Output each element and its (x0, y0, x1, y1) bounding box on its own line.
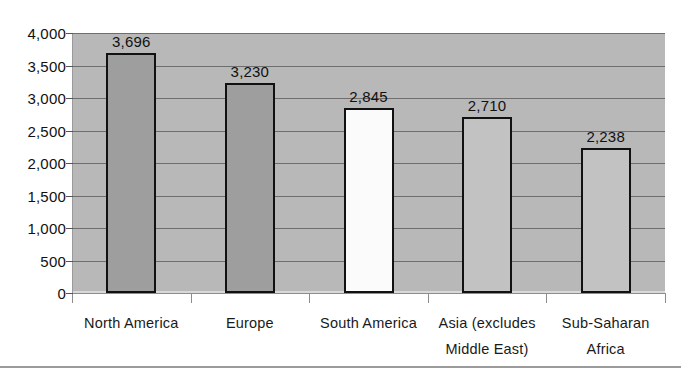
y-axis-tick-label: 3,000 (4, 91, 66, 106)
x-axis-category-label: South America (309, 310, 428, 336)
x-axis-category-line: Europe (191, 310, 310, 336)
bar (225, 83, 275, 293)
y-axis-tick-label: 1,500 (4, 188, 66, 203)
x-axis-category-label: Asia (excludesMiddle East) (428, 310, 547, 362)
y-axis-tick-mark (66, 163, 73, 164)
x-axis-category-line: Sub-Saharan (546, 310, 665, 336)
x-axis-category-label: Sub-SaharanAfrica (546, 310, 665, 362)
y-axis-tick-label: 4,000 (4, 26, 66, 41)
y-axis-tick-mark (66, 261, 73, 262)
bar-value-label: 2,845 (324, 89, 414, 104)
y-axis-tick-mark (66, 196, 73, 197)
y-axis-labels: 05001,0001,5002,0002,5003,0003,5004,000 (0, 0, 66, 387)
x-axis-category-line: North America (72, 310, 191, 336)
y-axis-tick-label: 500 (4, 253, 66, 268)
x-axis-category-line: Asia (excludes (428, 310, 547, 336)
y-axis-tick-label: 1,000 (4, 221, 66, 236)
y-axis-tick-mark (66, 33, 73, 34)
x-axis-line (72, 293, 666, 294)
y-axis-tick-mark (66, 131, 73, 132)
x-axis-category-line: Middle East) (428, 336, 547, 362)
x-axis-tick-mark (309, 294, 310, 303)
x-axis-tick-mark (428, 294, 429, 303)
bar (344, 108, 394, 293)
x-axis-tick-mark (665, 294, 666, 303)
bottom-divider (0, 366, 681, 368)
y-axis-tick-mark (66, 98, 73, 99)
x-axis-category-line: South America (309, 310, 428, 336)
x-axis-tick-mark (546, 294, 547, 303)
x-axis-category-label: Europe (191, 310, 310, 336)
bar-chart: 05001,0001,5002,0002,5003,0003,5004,000 … (0, 0, 681, 387)
bar-value-label: 3,230 (205, 64, 295, 79)
bar-value-label: 3,696 (86, 34, 176, 49)
bar-value-label: 2,238 (561, 129, 651, 144)
y-axis-tick-mark (66, 228, 73, 229)
bar (462, 117, 512, 293)
y-axis-tick-label: 3,500 (4, 58, 66, 73)
y-axis-tick-label: 0 (4, 286, 66, 301)
y-axis-tick-mark (66, 293, 73, 294)
x-axis-tick-mark (72, 294, 73, 303)
bar (106, 53, 156, 293)
x-axis-tick-mark (191, 294, 192, 303)
bar-value-label: 2,710 (442, 98, 532, 113)
gridline-3500 (72, 66, 665, 67)
bar (581, 148, 631, 293)
y-axis-tick-label: 2,000 (4, 156, 66, 171)
x-axis-category-label: North America (72, 310, 191, 336)
y-axis-tick-mark (66, 66, 73, 67)
y-axis-tick-label: 2,500 (4, 123, 66, 138)
x-axis-category-line: Africa (546, 336, 665, 362)
